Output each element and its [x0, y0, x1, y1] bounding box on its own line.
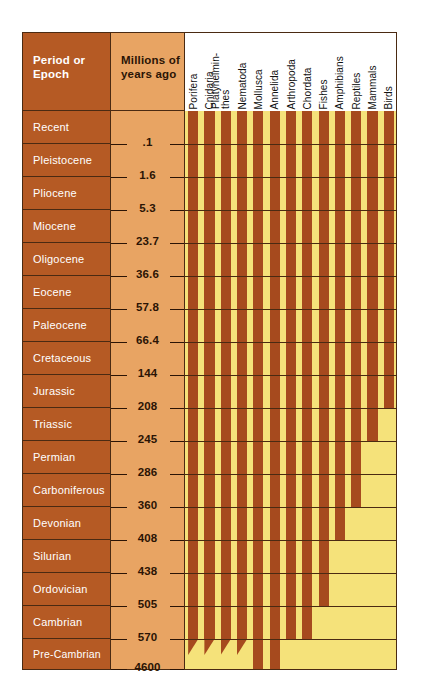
chart-frame: Period or Epoch RecentPleistocenePliocen… — [22, 32, 397, 670]
taxon-label-arthropoda: Arthropoda — [286, 59, 296, 109]
taxon-label-line: Fishes — [319, 79, 329, 109]
taxon-bar-taper-nematoda-0 — [237, 639, 247, 655]
taxon-bar-birds[interactable] — [384, 111, 394, 408]
taxon-bar-taper-platyhelminthes-0 — [221, 639, 231, 655]
taxon-label-birds: Birds — [384, 86, 394, 109]
age-tick-label: 57.8 — [111, 301, 184, 313]
period-row-label: Paleocene — [33, 319, 87, 331]
taxon-bar-amphibians[interactable] — [335, 111, 345, 540]
taxon-label-amphibians: Amphibians — [335, 56, 345, 109]
period-row-oligocene[interactable]: Oligocene — [23, 243, 110, 276]
period-row-triassic[interactable]: Triassic — [23, 408, 110, 441]
period-row-label: Eocene — [33, 286, 72, 298]
period-row-eocene[interactable]: Eocene — [23, 276, 110, 309]
period-row-miocene[interactable]: Miocene — [23, 210, 110, 243]
taxon-label-line: Birds — [384, 86, 394, 109]
geologic-timescale-chart: Period or Epoch RecentPleistocenePliocen… — [0, 0, 424, 686]
period-row-label: Silurian — [33, 550, 71, 562]
taxon-bar-annelida[interactable] — [270, 111, 280, 669]
taxon-label-line: Mollusca — [253, 69, 263, 109]
taxon-label-line: Annelida — [270, 69, 280, 109]
age-tick-label: 5.3 — [111, 202, 184, 214]
taxon-label-line: thes — [221, 53, 231, 109]
age-tick-label: 144 — [111, 367, 184, 379]
gridline-carboniferous — [185, 507, 396, 508]
period-row-pre-cambrian[interactable]: Pre-Cambrian — [23, 639, 110, 669]
age-header-label: Millions of years ago — [121, 53, 184, 81]
taxa-chart-column: PoriferaCnidariaPlatyhelmin-thesNematoda… — [185, 33, 396, 669]
gridline-pleistocene — [185, 177, 396, 178]
period-row-devonian[interactable]: Devonian — [23, 507, 110, 540]
age-tick-label: 66.4 — [111, 334, 184, 346]
age-tick-label: 4600 — [111, 661, 184, 673]
taxon-label-annelida: Annelida — [270, 69, 280, 109]
age-tick-label: .1 — [111, 136, 184, 148]
period-row-cretaceous[interactable]: Cretaceous — [23, 342, 110, 375]
age-tick-label: 245 — [111, 433, 184, 445]
taxon-label-nematoda: Nematoda — [237, 62, 247, 109]
period-row-paleocene[interactable]: Paleocene — [23, 309, 110, 342]
taxon-label-line: Mammals — [368, 65, 378, 109]
taxon-bar-mollusca[interactable] — [253, 111, 263, 669]
period-row-carboniferous[interactable]: Carboniferous — [23, 474, 110, 507]
period-row-recent[interactable]: Recent — [23, 111, 110, 144]
gridline-pliocene — [185, 210, 396, 211]
gridline-silurian — [185, 573, 396, 574]
period-row-label: Ordovician — [33, 583, 88, 595]
period-row-label: Recent — [33, 121, 69, 133]
taxon-label-mollusca: Mollusca — [253, 69, 263, 109]
period-row-ordovician[interactable]: Ordovician — [23, 573, 110, 606]
age-tick-label: 360 — [111, 499, 184, 511]
period-row-label: Cretaceous — [33, 352, 91, 364]
period-row-permian[interactable]: Permian — [23, 441, 110, 474]
taxa-range-plot — [185, 111, 396, 669]
period-row-label: Permian — [33, 451, 75, 463]
period-row-silurian[interactable]: Silurian — [23, 540, 110, 573]
age-tick-label: 286 — [111, 466, 184, 478]
gridline-miocene — [185, 243, 396, 244]
gridline-permian — [185, 474, 396, 475]
age-tick-label: 438 — [111, 565, 184, 577]
taxon-label-line: Chordata — [302, 67, 312, 109]
age-tick-label: 1.6 — [111, 169, 184, 181]
period-row-label: Pliocene — [33, 187, 77, 199]
age-tick-label: 208 — [111, 400, 184, 412]
age-tick-label: 408 — [111, 532, 184, 544]
taxon-label-reptiles: Reptiles — [351, 72, 361, 109]
age-tick-label: 36.6 — [111, 268, 184, 280]
age-tick-label: 570 — [111, 631, 184, 643]
taxon-label-fishes: Fishes — [319, 79, 329, 109]
period-row-label: Oligocene — [33, 253, 84, 265]
period-row-label: Triassic — [33, 418, 72, 430]
period-row-pleistocene[interactable]: Pleistocene — [23, 144, 110, 177]
period-header-label: Period or Epoch — [33, 53, 110, 81]
period-row-pliocene[interactable]: Pliocene — [23, 177, 110, 210]
gridline-paleocene — [185, 342, 396, 343]
period-row-label: Pre-Cambrian — [33, 648, 101, 660]
period-column: Period or Epoch RecentPleistocenePliocen… — [23, 33, 111, 669]
gridline-jurassic — [185, 408, 396, 409]
age-column: Millions of years ago .11.65.323.736.657… — [111, 33, 185, 669]
period-row-cambrian[interactable]: Cambrian — [23, 606, 110, 639]
gridline-cambrian — [185, 639, 396, 640]
taxon-label-porifera: Porifera — [188, 73, 198, 109]
taxa-label-header: PoriferaCnidariaPlatyhelmin-thesNematoda… — [185, 33, 396, 111]
gridline-cretaceous — [185, 375, 396, 376]
period-row-label: Cambrian — [33, 616, 82, 628]
period-row-label: Jurassic — [33, 385, 75, 397]
age-column-header: Millions of years ago — [111, 33, 184, 111]
gridline-recent — [185, 144, 396, 145]
gridline-eocene — [185, 309, 396, 310]
taxon-label-line: Amphibians — [335, 56, 345, 109]
age-tick-label: 23.7 — [111, 235, 184, 247]
taxon-label-line: Porifera — [188, 73, 198, 109]
taxon-label-line: Nematoda — [237, 62, 247, 109]
gridline-oligocene — [185, 276, 396, 277]
taxon-bar-fishes[interactable] — [319, 111, 329, 606]
age-tick-label: 505 — [111, 598, 184, 610]
taxon-label-line: Reptiles — [351, 72, 361, 109]
gridline-ordovician — [185, 606, 396, 607]
period-row-jurassic[interactable]: Jurassic — [23, 375, 110, 408]
taxon-label-chordata: Chordata — [302, 67, 312, 109]
gridline-devonian — [185, 540, 396, 541]
